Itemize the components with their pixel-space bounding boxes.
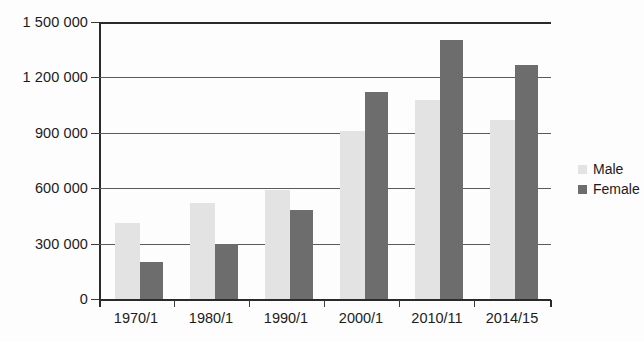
bar-female-1990-1 — [290, 210, 313, 299]
x-axis-tick-label: 1970/1 — [114, 310, 158, 326]
y-axis-tick — [91, 244, 99, 245]
x-axis-tick-label: 1990/1 — [264, 310, 308, 326]
bar-female-1980-1 — [215, 244, 238, 299]
y-axis-tick — [91, 22, 99, 23]
bar-male-1970-1 — [115, 223, 140, 299]
x-axis-tick-sep — [474, 300, 475, 307]
plot-area — [99, 22, 551, 299]
bar-group-2010-11 — [415, 22, 479, 299]
y-axis-tick-label: 300 000 — [35, 236, 88, 252]
legend-label-female: Female — [593, 181, 640, 197]
y-axis-tick — [91, 77, 99, 78]
y-axis-tick — [91, 188, 99, 189]
x-axis-tick-sep — [324, 300, 325, 307]
legend-item-male: Male — [578, 160, 640, 178]
y-axis-tick — [91, 299, 99, 300]
x-axis-tick-sep — [399, 300, 400, 307]
bar-female-1970-1 — [140, 262, 163, 299]
chart-legend: Male Female — [578, 160, 640, 200]
x-axis-tick-sep — [249, 300, 250, 307]
bar-male-2014-15 — [490, 120, 515, 299]
x-axis-tick-start — [99, 300, 101, 307]
y-axis-tick-label: 0 — [80, 291, 88, 307]
female-swatch-icon — [578, 185, 587, 194]
x-axis-tick-sep — [174, 300, 175, 307]
bar-male-1990-1 — [265, 190, 290, 299]
bar-group-2000-1 — [340, 22, 404, 299]
legend-label-male: Male — [593, 161, 623, 177]
bar-group-1990-1 — [265, 22, 329, 299]
bar-male-2000-1 — [340, 131, 365, 299]
y-axis-tick — [91, 133, 99, 134]
x-axis-line — [99, 299, 551, 301]
x-axis-tick-label: 2000/1 — [339, 310, 383, 326]
y-axis-tick-label: 900 000 — [35, 125, 88, 141]
x-axis-tick-label: 1980/1 — [189, 310, 233, 326]
bar-group-1980-1 — [190, 22, 254, 299]
legend-item-female: Female — [578, 180, 640, 198]
x-axis-tick-end — [550, 300, 552, 307]
y-axis-tick-label: 1 500 000 — [23, 14, 88, 30]
bar-female-2014-15 — [515, 65, 538, 299]
x-axis-tick-label: 2010/11 — [411, 310, 462, 326]
bar-male-1980-1 — [190, 203, 215, 299]
bar-female-2000-1 — [365, 92, 388, 299]
bar-male-2010-11 — [415, 100, 440, 299]
y-axis-label-column: 1 500 000 1 200 000 900 000 600 000 300 … — [0, 0, 88, 341]
male-swatch-icon — [578, 165, 587, 174]
bar-group-2014-15 — [490, 22, 554, 299]
bar-female-2010-11 — [440, 40, 463, 299]
y-axis-tick-label: 1 200 000 — [23, 69, 88, 85]
x-axis-tick-label: 2014/15 — [486, 310, 538, 326]
bar-chart: 1 500 000 1 200 000 900 000 600 000 300 … — [0, 0, 644, 341]
bar-group-1970-1 — [115, 22, 179, 299]
y-axis-tick-label: 600 000 — [35, 180, 88, 196]
